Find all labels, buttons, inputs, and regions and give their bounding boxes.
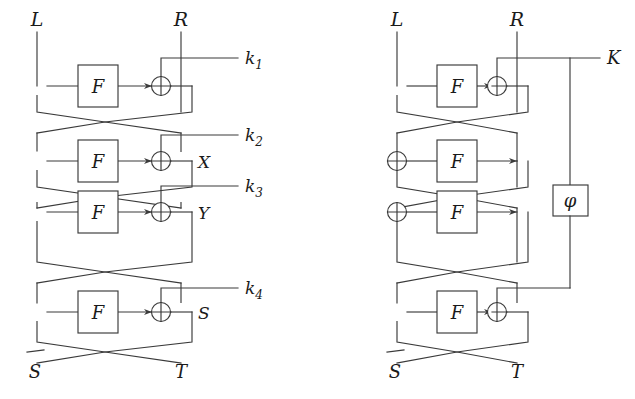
left-round-4: [37, 283, 238, 363]
left-key-label-k4: k4: [245, 278, 263, 302]
right-round-3-F: F: [450, 202, 465, 223]
left-s-overbar: [27, 350, 44, 352]
right-output-label-T: T: [511, 361, 525, 382]
right-input-label-R: R: [509, 8, 524, 30]
left-output-label-T: T: [175, 361, 189, 382]
left-output-label-Sbar: S: [29, 361, 41, 382]
left-intermediate-label-S: S: [198, 303, 210, 323]
left-round-4-F: F: [91, 302, 106, 323]
feistel-figure: L R F F F F k1 k2 k3 k4 X Y S S T: [0, 0, 635, 399]
right-s-overbar: [387, 350, 404, 352]
left-key-label-k1: k1: [245, 48, 263, 72]
right-phi-box-label: φ: [564, 190, 577, 211]
right-input-label-L: L: [390, 8, 404, 30]
left-intermediate-label-Y: Y: [198, 203, 211, 223]
left-input-label-R: R: [173, 8, 188, 30]
left-intermediate-label-X: X: [196, 152, 211, 172]
right-round-2-F: F: [450, 151, 465, 172]
left-round-3: [37, 186, 238, 283]
feistel-diagram-svg: L R F F F F k1 k2 k3 k4 X Y S S T: [0, 0, 635, 399]
left-round-2-F: F: [91, 151, 106, 172]
right-key-schedule: [553, 58, 588, 288]
left-key-label-k3: k3: [245, 176, 263, 200]
right-round-4: [397, 283, 570, 363]
right-master-key-label-K: K: [606, 47, 622, 68]
left-round-1-F: F: [91, 76, 106, 97]
right-output-label-Sbar: S: [389, 361, 401, 382]
left-input-label-L: L: [30, 8, 44, 30]
right-round-4-F: F: [450, 302, 465, 323]
right-round-1-F: F: [450, 76, 465, 97]
left-round-1: [37, 58, 238, 133]
left-key-label-k2: k2: [245, 125, 263, 149]
left-round-3-F: F: [91, 202, 106, 223]
